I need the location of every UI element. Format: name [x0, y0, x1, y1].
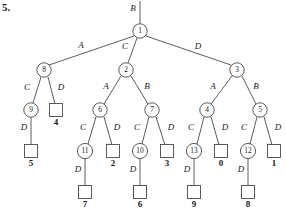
- edge-label: D: [57, 82, 65, 92]
- leaf-node: [134, 186, 147, 199]
- edges-layer: [31, 1, 272, 186]
- tree-edge: [104, 117, 112, 145]
- leaf-node: [79, 186, 92, 199]
- leaf-value-label: 5: [29, 158, 34, 168]
- leaf-value-label: 0: [219, 158, 224, 168]
- internal-node-label: 10: [136, 146, 144, 155]
- tree-edge: [156, 117, 165, 145]
- leaf-node: [50, 104, 63, 117]
- tree-edge: [146, 36, 231, 65]
- game-tree-diagram: BACDCDABABDCDCDCDCDDDDD 1823967451110131…: [0, 0, 286, 215]
- internal-node-label: 4: [205, 105, 209, 114]
- leaf-node: [25, 145, 38, 158]
- edge-label: C: [134, 122, 141, 132]
- edge-label: B: [144, 81, 150, 91]
- edge-label: D: [74, 164, 82, 174]
- edge-label: D: [274, 122, 282, 132]
- edge-label: D: [237, 164, 245, 174]
- tree-edge: [142, 117, 149, 144]
- internal-node-label: 6: [98, 105, 102, 114]
- leaf-value-label: 8: [246, 199, 251, 209]
- edge-label: D: [183, 164, 191, 174]
- leaf-value-label: 4: [54, 117, 59, 127]
- internal-node-label: 1: [138, 26, 142, 35]
- tree-edge: [264, 117, 272, 145]
- edge-label: B: [130, 3, 136, 13]
- tree-edge: [88, 117, 96, 144]
- leaf-value-label: 7: [83, 199, 88, 209]
- edge-label: B: [253, 81, 259, 91]
- tree-edge: [33, 77, 41, 103]
- tree-edge: [128, 38, 137, 63]
- leaf-value-label: 9: [192, 199, 197, 209]
- edge-label: D: [167, 122, 175, 132]
- leaf-node: [215, 145, 228, 158]
- leaf-node: [161, 145, 174, 158]
- edge-label: D: [129, 164, 137, 174]
- tree-edge: [48, 77, 55, 104]
- edge-label: C: [188, 122, 195, 132]
- leaf-value-label: 2: [111, 158, 116, 168]
- edge-label: D: [194, 41, 202, 51]
- leaf-node: [268, 145, 281, 158]
- internal-node-label: 7: [150, 105, 154, 114]
- tree-edge: [211, 117, 219, 145]
- edge-label: C: [241, 122, 248, 132]
- internal-node-label: 12: [244, 146, 252, 155]
- tree-edge: [197, 117, 204, 144]
- edge-label: D: [20, 122, 28, 132]
- internal-node-label: 3: [235, 65, 239, 74]
- edge-label: A: [77, 40, 84, 50]
- leaf-value-label: 3: [165, 158, 170, 168]
- edge-label: C: [122, 41, 129, 51]
- edge-label: A: [102, 81, 109, 91]
- edge-label: D: [221, 122, 229, 132]
- leaf-value-label: 6: [138, 199, 143, 209]
- edge-label: C: [80, 122, 87, 132]
- edge-label: A: [209, 81, 216, 91]
- leaf-value-label: 1: [272, 158, 277, 168]
- internal-node-label: 5: [258, 105, 262, 114]
- edge-label: C: [24, 82, 31, 92]
- figure-container: 5. BACDCDABABDCDCDCDCDDDDD 1823967451110…: [0, 0, 286, 215]
- leaf-values-layer: 4523017698: [29, 117, 277, 209]
- internal-node-label: 11: [81, 146, 88, 155]
- leaf-node: [242, 186, 255, 199]
- internal-node-label: 2: [124, 65, 128, 74]
- internal-node-label: 9: [29, 105, 33, 114]
- internal-node-label: 13: [190, 146, 198, 155]
- leaf-node: [188, 186, 201, 199]
- edge-label: D: [113, 122, 121, 132]
- internal-node-label: 8: [42, 65, 46, 74]
- leaf-node: [107, 145, 120, 158]
- tree-edge: [250, 117, 257, 144]
